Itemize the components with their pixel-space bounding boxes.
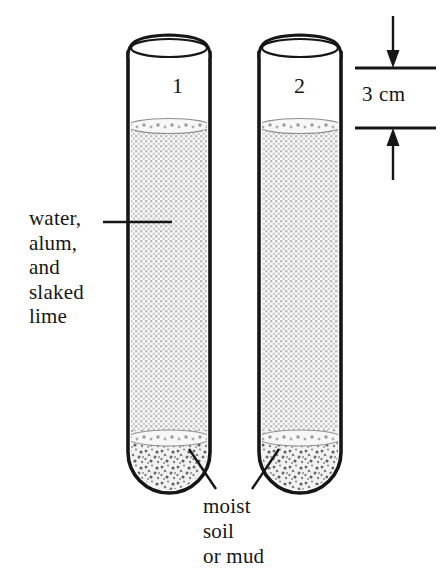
tube-2-rim-opening bbox=[262, 39, 338, 57]
sediment-contents-label: moist soil or mud bbox=[203, 494, 264, 569]
tube-2-liquid bbox=[257, 122, 343, 452]
tube-2-liquid-surface bbox=[258, 119, 342, 134]
dimension-arrow-top-head bbox=[387, 50, 400, 68]
tube-2 bbox=[257, 35, 343, 495]
tube-1 bbox=[126, 35, 212, 495]
liquid-contents-label: water, alum, and slaked lime bbox=[29, 206, 84, 329]
tube-1-rim-opening bbox=[131, 39, 207, 57]
tube-1-liquid bbox=[126, 122, 212, 452]
tube-2-number-label: 2 bbox=[294, 75, 305, 97]
figure-canvas: 1 2 3 cm water, alum, and slaked lime mo… bbox=[0, 0, 443, 572]
dimension-value-label: 3 cm bbox=[362, 84, 406, 105]
tube-1-number-label: 1 bbox=[172, 75, 183, 97]
tube-1-sediment-interface bbox=[127, 430, 211, 446]
tube-2-sediment-interface bbox=[258, 430, 342, 446]
dimension-arrow-bottom-head bbox=[387, 128, 400, 146]
tube-1-liquid-surface bbox=[127, 119, 211, 134]
